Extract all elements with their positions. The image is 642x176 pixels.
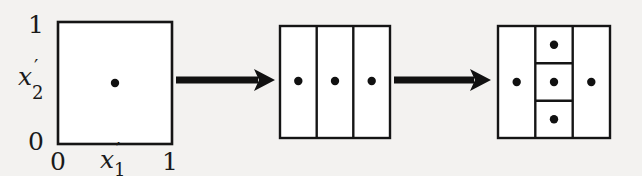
sample-point [111,79,119,87]
y-axis-tick-top: 1 [28,10,44,39]
y-axis-tick-bottom: 0 [28,127,44,156]
x-axis-label-prime: ′ [116,138,120,160]
y-axis-label-base: x [18,62,32,91]
sample-point [294,77,302,85]
sample-point [550,78,558,86]
x-axis-label-base: x [100,145,114,174]
x-axis-tick-right: 1 [162,147,178,176]
panel-subdivided-strips [498,26,610,138]
y-axis-label-prime: ′ [34,55,38,77]
transform-arrow-2-icon [394,69,491,91]
sample-point [587,78,595,86]
x-axis-label-subscript: 1 [114,159,125,176]
x-axis-tick-left: 0 [50,147,66,176]
sample-point [550,115,558,123]
panel-unit-square [58,22,172,144]
figure-container: 1 0 x ′ 2 0 1 x ′ 1 [0,0,642,176]
y-axis-label: x ′ 2 [18,55,43,103]
sample-point [550,41,558,49]
y-axis-label-subscript: 2 [32,82,43,103]
panel-three-strips [280,26,390,138]
sample-point [368,77,376,85]
diagram-canvas: 1 0 x ′ 2 0 1 x ′ 1 [0,0,642,176]
transform-arrow-1-icon [176,69,275,91]
sample-point [331,77,339,85]
sample-point [513,78,521,86]
